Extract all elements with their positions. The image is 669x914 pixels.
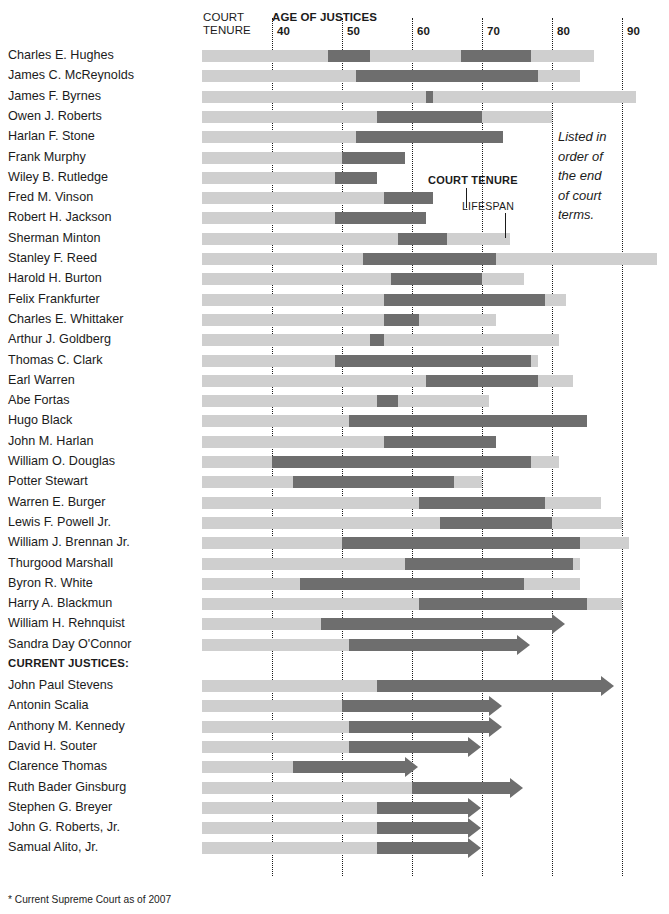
justice-row[interactable]: Ruth Bader Ginsburg1993– [0, 778, 669, 798]
justice-name: Sherman Minton [8, 231, 100, 246]
justice-name: Lewis F. Powell Jr. [8, 515, 111, 530]
justice-row[interactable]: Thomas C. Clark1949–67 [0, 351, 669, 371]
court-tenure-bar [377, 802, 468, 814]
annotation-lifespan-leader [505, 213, 506, 238]
axis-title: AGE OF JUSTICES [272, 11, 377, 24]
justice-name: Antonin Scalia [8, 698, 89, 713]
justice-row[interactable]: Felix Frankfurter1939–62 [0, 290, 669, 310]
justice-row[interactable]: Harold H. Burton1945–58 [0, 269, 669, 289]
justice-row[interactable]: Arthur J. Goldberg1962–65 [0, 330, 669, 350]
court-tenure-bar [377, 842, 468, 854]
supreme-court-tenure-chart: COURT TENURE AGE OF JUSTICES 40506070809… [0, 0, 669, 914]
justice-name: Felix Frankfurter [8, 292, 100, 307]
justice-name: Hugo Black [8, 413, 72, 428]
justice-row[interactable]: David H. Souter1990– [0, 737, 669, 757]
court-tenure-bar [426, 375, 538, 387]
ongoing-tenure-arrow-icon [468, 838, 481, 858]
justice-row[interactable]: Antonin Scalia1986– [0, 696, 669, 716]
justice-name: Arthur J. Goldberg [8, 332, 111, 347]
justice-name: John G. Roberts, Jr. [8, 820, 120, 835]
justice-row[interactable]: Charles E. Hughes1910–16, 1930–41 [0, 46, 669, 66]
justice-name: Byron R. White [8, 576, 93, 591]
justice-row[interactable]: Samual Alito, Jr.1994– [0, 838, 669, 858]
court-tenure-bar [272, 456, 531, 468]
justice-row[interactable]: Thurgood Marshall1967–91 [0, 554, 669, 574]
justice-name: Sandra Day O'Connor [8, 637, 132, 652]
justice-row[interactable]: Owen J. Roberts1930–45 [0, 107, 669, 127]
justice-row[interactable]: Lewis F. Powell Jr.1971–87 [0, 513, 669, 533]
justice-row[interactable]: James F. Byrnes1941–42 [0, 87, 669, 107]
justice-row[interactable]: Stanley F. Reed1938–57 [0, 249, 669, 269]
axis-tick-label-90: 90 [627, 25, 640, 37]
court-tenure-bar [349, 721, 489, 733]
court-tenure-bar [391, 273, 482, 285]
justice-name: John M. Harlan [8, 434, 93, 449]
justice-name: Thomas C. Clark [8, 353, 102, 368]
court-tenure-bar [377, 680, 601, 692]
justice-row[interactable]: Hugo Black1937–71 [0, 411, 669, 431]
court-tenure-bar [342, 152, 405, 164]
justice-name: Fred M. Vinson [8, 190, 93, 205]
axis-tick-label-80: 80 [557, 25, 570, 37]
justice-name: David H. Souter [8, 739, 97, 754]
ongoing-tenure-arrow-icon [468, 737, 481, 757]
justice-name: Charles E. Whittaker [8, 312, 123, 327]
justice-name: Stanley F. Reed [8, 251, 97, 266]
justice-name: Warren E. Burger [8, 495, 106, 510]
lifespan-bar [202, 639, 349, 651]
justice-row[interactable]: John G. Roberts, Jr.1994– [0, 818, 669, 838]
justice-row[interactable]: Charles E. Whittaker1957–62 [0, 310, 669, 330]
justice-name: Robert H. Jackson [8, 210, 112, 225]
justice-row[interactable]: Warren E. Burger1969–86 [0, 493, 669, 513]
ongoing-tenure-arrow-icon [489, 717, 502, 737]
justice-name: Harry A. Blackmun [8, 596, 112, 611]
lifespan-bar [202, 802, 377, 814]
court-tenure-bar [384, 192, 433, 204]
justice-row[interactable]: Potter Stewart1958–81 [0, 472, 669, 492]
justice-name: Harlan F. Stone [8, 129, 95, 144]
axis-tick-label-70: 70 [487, 25, 500, 37]
court-tenure-bar [335, 212, 426, 224]
justice-row[interactable]: William O. Douglas1939–75 [0, 452, 669, 472]
court-tenure-bar [335, 172, 377, 184]
justice-row[interactable]: John Paul Stevens1975– [0, 676, 669, 696]
axis-tick-label-50: 50 [347, 25, 360, 37]
ongoing-tenure-arrow-icon [405, 757, 418, 777]
justice-row[interactable]: Earl Warren1953–69 [0, 371, 669, 391]
justice-name: Potter Stewart [8, 474, 88, 489]
court-tenure-bar [419, 598, 587, 610]
lifespan-bar [202, 761, 293, 773]
justice-row[interactable]: Anthony M. Kennedy1988– [0, 717, 669, 737]
note-listed-in-order: Listed in order of the end of court term… [558, 127, 606, 225]
lifespan-bar [202, 91, 636, 103]
lifespan-bar [202, 680, 377, 692]
justice-row[interactable]: James C. McReynolds1914–41 [0, 66, 669, 86]
axis-tick-label-60: 60 [417, 25, 430, 37]
court-tenure-bar [293, 476, 454, 488]
court-tenure-bar [321, 618, 552, 630]
justice-row[interactable]: Sherman Minton1949–56 [0, 229, 669, 249]
lifespan-bar [202, 741, 349, 753]
justice-row[interactable]: John M. Harlan1955–71 [0, 432, 669, 452]
court-tenure-bar [293, 761, 405, 773]
justice-row[interactable]: Abe Fortas1965–69 [0, 391, 669, 411]
justice-name: Anthony M. Kennedy [8, 719, 125, 734]
lifespan-bar [202, 233, 510, 245]
justice-row[interactable]: William J. Brennan Jr.1956–90 [0, 533, 669, 553]
justice-row[interactable]: Byron R. White1962–93 [0, 574, 669, 594]
court-tenure-bar [328, 50, 370, 62]
justice-row[interactable]: Stephen G. Breyer1994– [0, 798, 669, 818]
lifespan-bar [202, 721, 349, 733]
ongoing-tenure-arrow-icon [489, 696, 502, 716]
justice-row[interactable]: William H. Rehnquist1971–2005 [0, 614, 669, 634]
lifespan-bar [202, 700, 342, 712]
court-tenure-bar [440, 517, 552, 529]
justice-row[interactable]: Sandra Day O'Connor1981– [0, 635, 669, 655]
justice-row[interactable]: Harry A. Blackmun1970–94 [0, 594, 669, 614]
court-tenure-bar [405, 558, 573, 570]
court-tenure-bar [349, 741, 468, 753]
lifespan-bar [202, 395, 489, 407]
justice-name: Ruth Bader Ginsburg [8, 780, 126, 795]
justice-name: Frank Murphy [8, 150, 86, 165]
justice-row[interactable]: Clarence Thomas1991– [0, 757, 669, 777]
